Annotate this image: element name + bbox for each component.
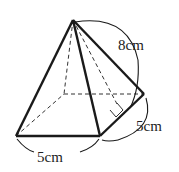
arc-base-front-right [80, 139, 99, 152]
arc-base-right-tail [102, 140, 118, 141]
arc-base-front-left [17, 139, 34, 152]
edge-apex-frontleft [16, 20, 73, 136]
base-front-label: 5cm [37, 149, 63, 165]
slant-height-line [73, 20, 117, 104]
pyramid-diagram: 8cm 5cm 5cm [0, 0, 179, 172]
hidden-edge-base-left [16, 94, 64, 136]
edge-apex-frontright [73, 20, 100, 136]
slant-height-label: 8cm [118, 37, 144, 53]
base-right-label: 5cm [136, 118, 162, 134]
edge-apex-backright [73, 20, 144, 94]
